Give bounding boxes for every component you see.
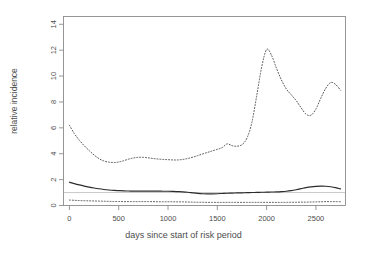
y-tick-label: 8 xyxy=(49,100,58,104)
y-tick-label: 6 xyxy=(49,126,58,130)
y-tick-label: 4 xyxy=(49,152,58,156)
x-tick-label: 2000 xyxy=(258,214,275,223)
series-line xyxy=(69,49,340,162)
x-tick-label: 1000 xyxy=(160,214,177,223)
axis-group: 0246810121405001000150020002500 xyxy=(49,17,346,223)
y-tick-label: 0 xyxy=(49,203,58,207)
series-line xyxy=(69,200,340,202)
y-tick-label: 10 xyxy=(49,72,58,80)
x-tick-label: 1500 xyxy=(209,214,226,223)
x-tick-label: 0 xyxy=(67,214,71,223)
x-tick-label: 2500 xyxy=(308,214,325,223)
y-tick-label: 14 xyxy=(49,20,58,28)
chart-container: 0246810121405001000150020002500 relative… xyxy=(0,0,367,255)
x-axis-label: days since start of risk period xyxy=(0,230,367,240)
plot-area: 0246810121405001000150020002500 xyxy=(0,0,367,255)
x-tick-label: 500 xyxy=(112,214,125,223)
y-axis-label: relative incidence xyxy=(9,57,19,145)
series-line xyxy=(69,182,340,194)
y-tick-label: 12 xyxy=(49,46,58,54)
y-tick-label: 2 xyxy=(49,178,58,182)
series-group xyxy=(64,49,346,202)
